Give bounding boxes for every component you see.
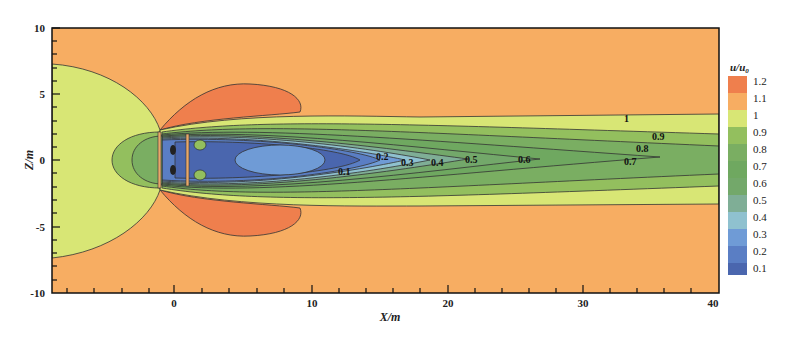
x-tick-label: 20 (443, 297, 455, 309)
x-tick-label: 10 (307, 297, 319, 309)
colorbar-title: u/u0 (730, 61, 749, 75)
y-tick-label: 0 (40, 154, 46, 166)
colorbar-label: 1.2 (753, 75, 767, 87)
contour-plot: 0.1 0.2 0.3 0.4 0.5 0.6 0.7 0.8 0.9 1 10… (0, 0, 792, 339)
contour-label: 0.1 (338, 166, 351, 177)
colorbar-label: 0.2 (753, 245, 767, 257)
colorbar-label: 0.6 (753, 177, 767, 189)
colorbar-label: 0.7 (753, 160, 767, 172)
y-tick-label: -5 (36, 221, 46, 233)
colorbar-label: 0.9 (753, 126, 767, 138)
x-tick-label: 0 (171, 297, 177, 309)
contour-label: 0.4 (431, 157, 444, 168)
contour-label: 0.6 (518, 154, 531, 165)
colorbar-label: 1.1 (753, 92, 767, 104)
y-tick-label: 5 (40, 88, 46, 100)
colorbar-label: 1 (753, 109, 759, 121)
y-tick-label: -10 (30, 287, 45, 299)
colorbar-label: 0.4 (753, 211, 767, 223)
x-tick-label: 30 (578, 297, 590, 309)
contour-label: 0.5 (465, 154, 478, 165)
contour-label: 0.7 (624, 156, 637, 167)
contour-label: 0.9 (652, 131, 665, 142)
colorbar-label: 0.1 (753, 262, 767, 274)
y-axis-title: Z/m (22, 150, 36, 171)
contour-label: 0.2 (376, 151, 389, 162)
colorbar: u/u0 (728, 61, 749, 275)
x-tick-label: 40 (708, 297, 720, 309)
colorbar-label: 0.8 (753, 143, 767, 155)
contour-label: 0.8 (636, 143, 649, 154)
y-tick-label: 10 (34, 22, 46, 34)
x-axis-title: X/m (379, 310, 401, 324)
colorbar-labels: 1.2 1.1 1 0.9 0.8 0.7 0.6 0.5 0.4 0.3 0.… (753, 75, 767, 274)
contour-label: 1 (624, 113, 629, 124)
contour-label: 0.3 (401, 157, 414, 168)
colorbar-label: 0.3 (753, 228, 767, 240)
colorbar-label: 0.5 (753, 194, 767, 206)
